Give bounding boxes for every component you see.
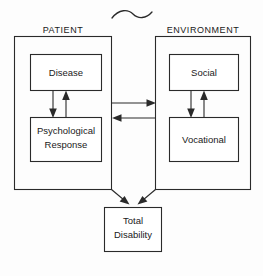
diagram-canvas: PATIENT ENVIRONMENT Disease Psychologica… xyxy=(0,0,263,276)
node-label-psychological-response-line1: Psychological xyxy=(37,125,95,136)
node-label-social: Social xyxy=(191,67,217,78)
arrowhead-left-between-groups xyxy=(112,114,122,121)
connector-environment-to-total-disability xyxy=(143,190,156,201)
node-label-psychological-response-line2: Response xyxy=(45,139,88,150)
node-label-disease: Disease xyxy=(49,67,83,78)
node-label-total-disability-line2: Disability xyxy=(114,229,152,240)
connector-patient-to-total-disability xyxy=(112,190,125,201)
arrowhead-down-patient xyxy=(49,109,57,119)
node-label-total-disability-line1: Total xyxy=(123,215,143,226)
node-label-vocational: Vocational xyxy=(182,134,226,145)
arrowhead-up-patient xyxy=(62,91,70,101)
arrowhead-right-between-groups xyxy=(147,99,157,106)
tilde-squiggle-icon xyxy=(112,11,152,18)
disability-model-diagram: PATIENT ENVIRONMENT Disease Psychologica… xyxy=(0,0,263,276)
arrowhead-up-environment xyxy=(200,91,208,101)
group-label-patient: PATIENT xyxy=(43,25,84,35)
group-label-environment: ENVIRONMENT xyxy=(167,25,240,35)
arrowhead-down-environment xyxy=(187,109,195,119)
